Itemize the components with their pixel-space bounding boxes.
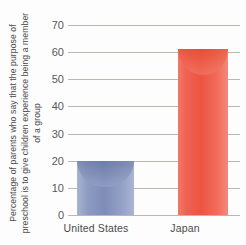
bar-united-states bbox=[77, 161, 134, 215]
y-tick-label: 50 bbox=[0, 73, 64, 85]
plot-area bbox=[68, 25, 240, 215]
y-tick-label: 0 bbox=[0, 209, 64, 221]
x-axis-line bbox=[68, 215, 240, 216]
bar-japan bbox=[178, 49, 228, 215]
gridline bbox=[68, 25, 240, 26]
x-tick-label-united-states: United States bbox=[50, 222, 142, 234]
bar-chart: Percentage of parents who say that the p… bbox=[0, 0, 246, 245]
y-tick-label: 30 bbox=[0, 128, 64, 140]
x-tick-label-japan: Japan bbox=[153, 222, 217, 234]
y-tick-label: 10 bbox=[0, 182, 64, 194]
y-tick-label: 60 bbox=[0, 46, 64, 58]
y-tick-label: 70 bbox=[0, 19, 64, 31]
y-tick-label: 40 bbox=[0, 100, 64, 112]
y-axis-ticks: 70 60 50 40 30 20 10 0 bbox=[0, 25, 64, 215]
y-tick-label: 20 bbox=[0, 155, 64, 167]
